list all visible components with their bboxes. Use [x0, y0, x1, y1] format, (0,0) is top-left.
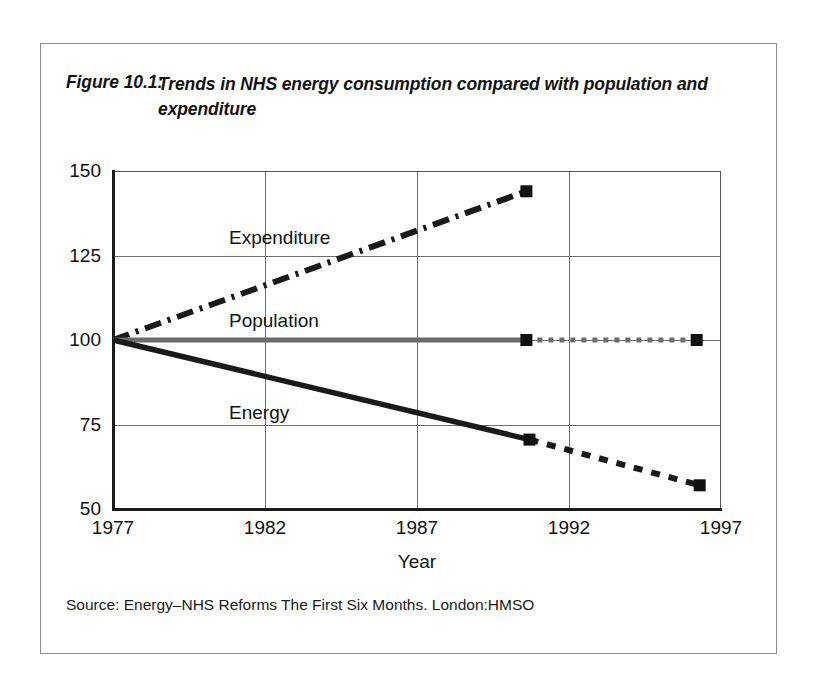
x-tick-1992: 1992 [548, 517, 590, 539]
x-tick-1982: 1982 [244, 517, 286, 539]
source-note: Source: Energy–NHS Reforms The First Six… [66, 596, 534, 614]
marker-population-1990 [520, 334, 532, 346]
x-tick-1997: 1997 [700, 517, 742, 539]
series-label-expenditure: Expenditure [229, 227, 330, 249]
figure-caption-text: Trends in NHS energy consumption compare… [158, 72, 726, 122]
figure-title: Figure 10.1: Trends in NHS energy consum… [66, 72, 726, 122]
figure-container: Figure 10.1: Trends in NHS energy consum… [40, 43, 777, 654]
y-tick-125: 125 [69, 245, 101, 267]
figure-number: Figure 10.1: [66, 72, 158, 93]
marker-energy-1996 [694, 479, 706, 491]
marker-energy-1990 [524, 434, 536, 446]
y-tick-100: 100 [69, 329, 101, 351]
series-label-energy: Energy [229, 402, 289, 424]
y-tick-150: 150 [69, 160, 101, 182]
series-line-expenditure [113, 191, 526, 340]
marker-expenditure-1990 [520, 185, 532, 197]
series-line-energy-projected [530, 440, 700, 486]
series-label-population: Population [229, 310, 319, 332]
chart-plot-area: Expenditure Population Energy 150 125 10… [113, 171, 721, 509]
series-svg [113, 171, 721, 509]
x-tick-1977: 1977 [92, 517, 134, 539]
series-line-energy-actual [113, 340, 530, 440]
x-axis-label: Year [113, 551, 721, 573]
y-tick-75: 75 [80, 414, 101, 436]
x-tick-1987: 1987 [396, 517, 438, 539]
marker-population-1996 [691, 334, 703, 346]
